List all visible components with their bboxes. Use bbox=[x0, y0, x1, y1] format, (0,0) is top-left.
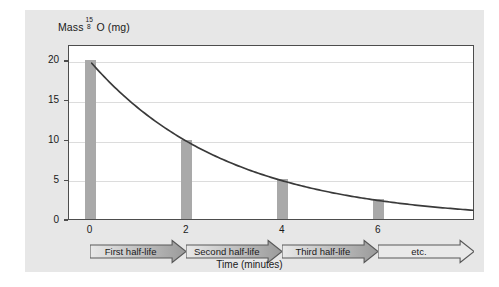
y-tick-mark bbox=[64, 60, 68, 61]
y-axis-title-prefix: Mass bbox=[58, 21, 84, 33]
y-tick-mark bbox=[64, 100, 68, 101]
y-tick-label: 0 bbox=[33, 214, 59, 225]
plot-area bbox=[68, 45, 474, 220]
x-axis-title: Time (minutes) bbox=[0, 259, 499, 270]
y-tick-mark bbox=[64, 140, 68, 141]
figure-root: Mass158O (mg) First half-lifeSecond half… bbox=[0, 0, 499, 287]
x-tick-label: 6 bbox=[366, 224, 390, 235]
y-tick-label: 15 bbox=[33, 94, 59, 105]
y-tick-mark bbox=[64, 180, 68, 181]
x-tick-label: 2 bbox=[174, 224, 198, 235]
y-axis-title: Mass158O (mg) bbox=[58, 20, 130, 33]
decay-curve bbox=[69, 46, 473, 220]
isotope-atomic-number: 8 bbox=[87, 24, 91, 31]
y-tick-label: 10 bbox=[33, 134, 59, 145]
x-tick-label: 0 bbox=[78, 224, 102, 235]
y-tick-label: 20 bbox=[33, 54, 59, 65]
y-tick-mark bbox=[64, 219, 68, 220]
y-tick-label: 5 bbox=[33, 174, 59, 185]
isotope-notation: 158 bbox=[86, 20, 96, 31]
y-axis-title-suffix: O (mg) bbox=[97, 21, 130, 33]
x-tick-label: 4 bbox=[270, 224, 294, 235]
